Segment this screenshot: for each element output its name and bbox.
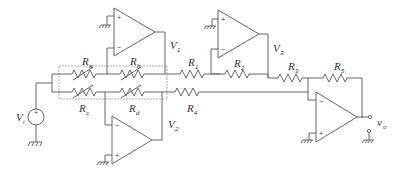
- svg-text:i: i: [23, 119, 25, 125]
- svg-text:+: +: [117, 14, 121, 21]
- svg-text:R: R: [333, 60, 341, 72]
- svg-text:−: −: [221, 46, 225, 53]
- svg-text:5: 5: [341, 68, 345, 74]
- label-rb: R b: [129, 55, 141, 69]
- svg-text:R: R: [129, 55, 137, 67]
- label-r4: R 4: [186, 102, 198, 116]
- svg-text:4: 4: [194, 110, 198, 116]
- svg-text:2: 2: [174, 126, 179, 132]
- svg-text:+: +: [221, 16, 225, 23]
- svg-text:R: R: [78, 102, 86, 114]
- label-rd: R d: [128, 102, 140, 116]
- resistor-r2: [211, 70, 268, 78]
- voltage-source-vi: +: [28, 74, 52, 146]
- svg-text:R: R: [186, 102, 194, 114]
- svg-text:R: R: [233, 57, 241, 69]
- label-r1: R 1: [187, 56, 198, 70]
- svg-text:1: 1: [177, 47, 180, 53]
- svg-text:−: −: [319, 98, 323, 105]
- svg-text:3: 3: [280, 50, 284, 56]
- resistor-r4: [175, 88, 308, 96]
- top-arm: [52, 67, 180, 80]
- label-vi: V i: [16, 111, 25, 125]
- svg-text:−: −: [115, 122, 119, 129]
- label-v2: V 2: [168, 118, 179, 132]
- label-ra: R a: [81, 55, 93, 69]
- output-ground: [362, 129, 374, 143]
- svg-text:R: R: [81, 55, 89, 67]
- svg-text:−: −: [117, 44, 121, 51]
- svg-text:+: +: [319, 130, 323, 137]
- svg-text:2: 2: [240, 65, 245, 71]
- label-v3: V 3: [273, 42, 284, 56]
- svg-text:c: c: [86, 110, 89, 116]
- op-amp-a4: − +: [301, 92, 372, 143]
- svg-text:d: d: [136, 110, 140, 116]
- bridge-box: [59, 66, 167, 99]
- label-r3: R 3: [287, 60, 299, 74]
- svg-text:v: v: [377, 116, 382, 128]
- svg-text:1: 1: [195, 64, 198, 70]
- resistor-r3: [268, 74, 308, 100]
- label-r5: R 5: [333, 60, 345, 74]
- svg-text:+: +: [34, 109, 38, 116]
- bottom-arm: [52, 85, 175, 98]
- label-r2: R 2: [233, 57, 245, 71]
- circuit-diagram: + V i R a R b: [0, 0, 395, 175]
- svg-text:3: 3: [295, 68, 299, 74]
- svg-text:+: +: [115, 152, 119, 159]
- label-v1: V 1: [170, 39, 180, 53]
- svg-text:R: R: [187, 56, 195, 68]
- svg-text:R: R: [128, 102, 136, 114]
- label-vo: v o: [377, 116, 387, 130]
- label-rc: R c: [78, 102, 89, 116]
- svg-text:o: o: [383, 124, 387, 130]
- svg-text:R: R: [287, 60, 295, 72]
